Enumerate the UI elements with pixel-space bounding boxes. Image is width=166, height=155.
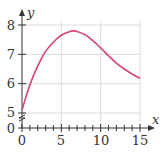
y-tick-8: 8 bbox=[7, 18, 15, 33]
y-tick-0: 0 bbox=[7, 121, 15, 136]
y-axis-label: y bbox=[26, 5, 35, 20]
x-tick-10: 10 bbox=[93, 133, 110, 148]
grid bbox=[22, 21, 140, 128]
x-tick-15: 15 bbox=[132, 133, 149, 148]
x-tick-0: 0 bbox=[18, 133, 26, 148]
y-axis-arrow-icon bbox=[19, 9, 25, 16]
y-tick-6: 6 bbox=[7, 76, 15, 91]
ticks bbox=[18, 25, 140, 132]
y-tick-7: 7 bbox=[7, 47, 15, 62]
y-tick-5: 5 bbox=[7, 105, 15, 120]
x-axis-label: x bbox=[152, 112, 160, 127]
data-curve bbox=[22, 31, 140, 110]
x-tick-5: 5 bbox=[57, 133, 65, 148]
chart: x y 0 5 10 15 0 5 6 7 8 bbox=[0, 0, 166, 155]
